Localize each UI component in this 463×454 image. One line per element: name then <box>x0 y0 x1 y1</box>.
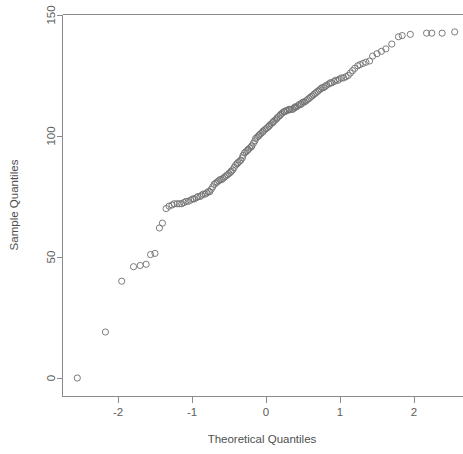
y-tick-label: 0 <box>45 375 57 381</box>
plot-background <box>0 0 463 454</box>
qq-plot-figure: 050100150 -2-1012 Sample Quantiles Theor… <box>0 0 463 454</box>
x-tick-label: -2 <box>113 406 123 418</box>
qq-plot-canvas: 050100150 -2-1012 Sample Quantiles Theor… <box>0 0 463 454</box>
y-tick-label: 100 <box>45 126 57 145</box>
y-tick-label: 50 <box>45 251 57 264</box>
x-tick-label: -1 <box>187 406 197 418</box>
x-tick-label: 2 <box>411 406 417 418</box>
y-tick-label: 150 <box>45 5 57 24</box>
x-tick-label: 1 <box>337 406 343 418</box>
y-axis-title: Sample Quantiles <box>8 159 20 250</box>
x-tick-label: 0 <box>263 406 269 418</box>
x-axis-title: Theoretical Quantiles <box>208 433 317 445</box>
